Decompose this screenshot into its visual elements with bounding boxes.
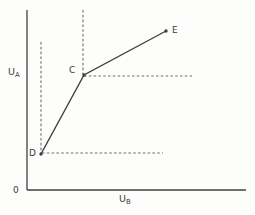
x-axis-label-subscript: B	[126, 198, 131, 206]
y-axis-label-base: U	[8, 66, 15, 77]
point-marker-C	[82, 73, 85, 76]
diagram-canvas	[0, 0, 255, 215]
point-label-D: D	[29, 149, 36, 158]
y-axis-label-subscript: A	[15, 71, 20, 79]
point-marker-E	[164, 29, 167, 32]
frontier-line-DCE	[41, 31, 166, 154]
y-axis-label: UA	[8, 67, 20, 77]
point-marker-D	[39, 152, 42, 155]
x-axis-label-base: U	[119, 193, 126, 204]
point-label-E: E	[172, 26, 178, 35]
point-label-C: C	[69, 66, 75, 75]
origin-label: 0	[13, 186, 19, 195]
x-axis-label: UB	[119, 194, 131, 204]
utility-frontier-diagram: UA UB 0 DCE	[0, 0, 255, 215]
